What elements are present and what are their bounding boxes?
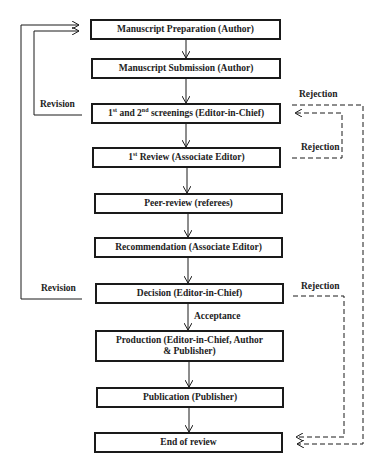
node-manuscript-preparation: Manuscript Preparation (Author): [90, 19, 281, 40]
label-rejection-decision: Rejection: [301, 281, 340, 291]
node-label: Production (Editor-in-Chief, Author & Pu…: [111, 335, 268, 357]
revision-loop-decision: [21, 25, 82, 299]
rejection-loop-decision: [293, 296, 344, 437]
node-end-of-review: End of review: [94, 432, 283, 453]
node-first-review: 1st Review (Associate Editor): [92, 147, 281, 168]
node-recommendation: Recommendation (Associate Editor): [94, 237, 283, 258]
node-label: Peer-review (referees): [144, 198, 233, 209]
node-manuscript-submission: Manuscript Submission (Author): [91, 58, 281, 79]
node-production: Production (Editor-in-Chief, Author & Pu…: [95, 330, 284, 362]
node-peer-review: Peer-review (referees): [94, 193, 283, 214]
node-label: Manuscript Submission (Author): [119, 63, 254, 74]
node-decision: Decision (Editor-in-Chief): [95, 283, 284, 304]
rejection-loop-screen: [292, 105, 363, 444]
node-label: 1st and 2nd screenings (Editor-in-Chief): [108, 108, 264, 119]
node-label: Recommendation (Associate Editor): [115, 242, 262, 253]
label-revision-bottom: Revision: [41, 283, 76, 293]
node-label: Manuscript Preparation (Author): [117, 24, 254, 35]
node-label: End of review: [160, 437, 216, 448]
node-label: Decision (Editor-in-Chief): [137, 288, 242, 299]
label-acceptance: Acceptance: [194, 311, 240, 321]
node-label: Publication (Publisher): [143, 392, 237, 403]
label-revision-top: Revision: [40, 99, 75, 109]
label-rejection-screen: Rejection: [299, 89, 338, 99]
label-rejection-review1: Rejection: [301, 142, 340, 152]
node-publication: Publication (Publisher): [96, 387, 284, 408]
node-label: 1st Review (Associate Editor): [128, 152, 244, 163]
node-screenings: 1st and 2nd screenings (Editor-in-Chief): [91, 103, 281, 124]
